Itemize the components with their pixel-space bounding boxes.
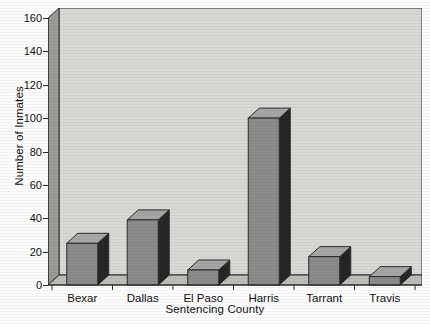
x-axis-title: Sentencing County: [0, 303, 430, 315]
y-axis-tick-label: 100: [8, 112, 42, 124]
y-axis-tick-label: 60: [8, 179, 42, 191]
bar-side-face: [158, 210, 169, 285]
bar-front-face: [127, 220, 158, 285]
bar-harris: [248, 108, 290, 285]
bar-front-face: [369, 277, 400, 285]
bar-el-paso: [188, 260, 230, 285]
bar-tarrant: [309, 247, 351, 285]
y-axis-tick-label: 80: [8, 146, 42, 158]
bar-side-face: [279, 108, 290, 285]
plot-back-wall: [59, 8, 422, 275]
plot-3d-scene: [48, 8, 422, 292]
bar-front-face: [188, 270, 219, 285]
y-axis-tick-label: 40: [8, 212, 42, 224]
bar-front-face: [67, 243, 98, 285]
y-axis-tick-label: 20: [8, 246, 42, 258]
bar-front-face: [248, 118, 279, 285]
bar-bexar: [67, 233, 109, 285]
y-axis-tick-label: 0: [8, 279, 42, 291]
y-axis-tick-label: 140: [8, 45, 42, 57]
plot-area: [48, 8, 422, 292]
bar-chart: Number of Inmates 020406080100120140160 …: [0, 0, 430, 324]
bar-front-face: [309, 257, 340, 285]
plot-left-wall: [48, 8, 59, 285]
y-axis-tick-label: 160: [8, 12, 42, 24]
y-axis-tick-labels: 020406080100120140160: [8, 0, 42, 324]
y-axis-tick-label: 120: [8, 79, 42, 91]
bar-dallas: [127, 210, 169, 285]
